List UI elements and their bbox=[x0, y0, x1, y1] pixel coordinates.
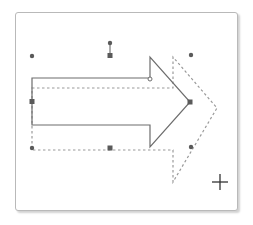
corner-handle-top-right[interactable] bbox=[189, 53, 193, 57]
corner-handle-bottom-left[interactable] bbox=[30, 146, 34, 150]
arrow-shape-drag-preview bbox=[32, 57, 217, 182]
side-handle-top[interactable] bbox=[108, 53, 113, 58]
arrow-shape[interactable] bbox=[32, 57, 190, 147]
corner-handle-bottom-right[interactable] bbox=[189, 145, 193, 149]
rotate-handle[interactable] bbox=[108, 41, 112, 45]
crosshair-cursor-icon bbox=[212, 174, 228, 190]
corner-handle-top-left[interactable] bbox=[30, 54, 34, 58]
head-adjust-handle[interactable] bbox=[148, 77, 152, 81]
side-handle-left[interactable] bbox=[30, 99, 35, 104]
side-handle-right[interactable] bbox=[188, 100, 193, 105]
drawing-canvas[interactable] bbox=[0, 0, 253, 225]
side-handle-bottom[interactable] bbox=[108, 146, 113, 151]
